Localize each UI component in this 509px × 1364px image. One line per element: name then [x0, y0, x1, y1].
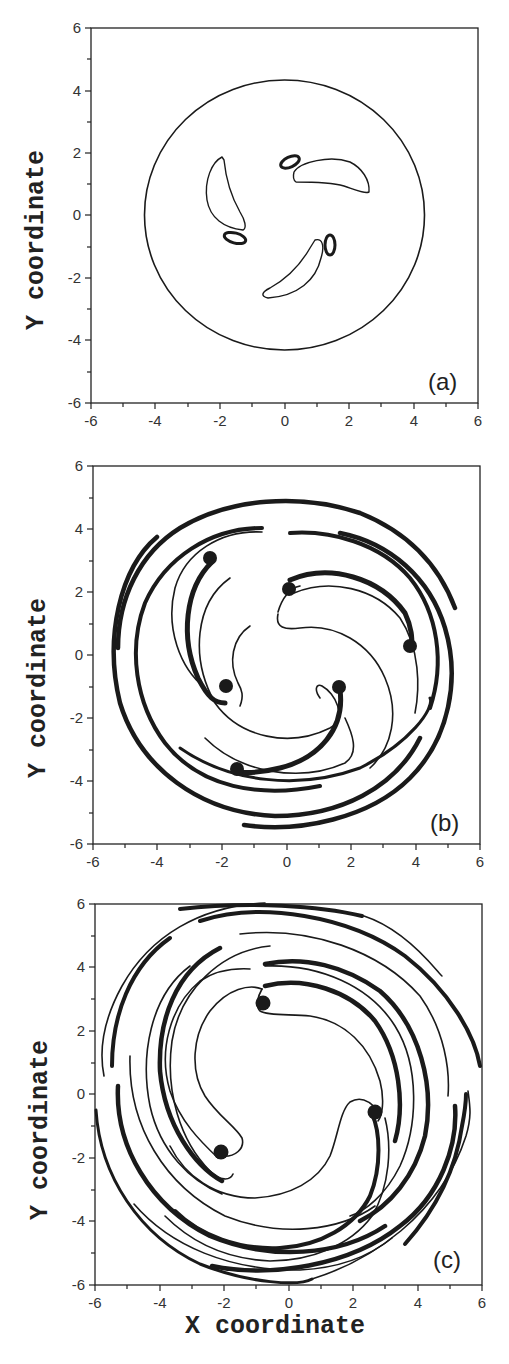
y-tick: 6: [73, 19, 81, 36]
panel-a: -6 -4 -2 0 2 4 6 6 4 2 0 -2 -4 -6: [0, 0, 509, 430]
x-tick: -4: [150, 853, 163, 870]
spiral-arm-thin: [233, 626, 250, 706]
y-axis-label: Y coordinate: [26, 1040, 55, 1220]
x-tick: 2: [349, 1294, 357, 1311]
spiral-arm-thick: [136, 528, 320, 791]
x-tick: -6: [86, 853, 99, 870]
x-tick-labels: -6 -4 -2 0 2 4 6: [86, 853, 484, 870]
marker-dot: [403, 639, 417, 653]
marker-dot: [203, 551, 217, 565]
panel-label-c: (c): [433, 1246, 461, 1273]
y-tick: -6: [72, 1276, 85, 1293]
y-axis-label: Y coordinate: [24, 598, 53, 778]
x-tick: -2: [213, 412, 226, 429]
small-ellipse: [223, 230, 247, 245]
marker-dot: [368, 1105, 383, 1120]
panel-c-plot: -6 -4 -2 0 2 4 6 6 4 2 0 -2 -4 -6: [0, 876, 509, 1364]
y-tick: 2: [77, 1022, 85, 1039]
x-tick: 4: [412, 853, 420, 870]
panel-label-b: (b): [430, 809, 459, 836]
x-tick: 2: [345, 412, 353, 429]
x-tick: 0: [281, 412, 289, 429]
spiral-arm-thin: [364, 916, 442, 976]
y-tick: 0: [73, 206, 81, 223]
plot-frame: [91, 28, 478, 403]
marker-dot: [332, 680, 346, 694]
marker-dot: [282, 582, 296, 596]
y-tick: -4: [72, 1212, 85, 1229]
spiral-arm-thin: [195, 987, 262, 1156]
x-tick: 2: [347, 853, 355, 870]
panel-a-plot: -6 -4 -2 0 2 4 6 6 4 2 0 -2 -4 -6: [0, 0, 509, 430]
spiral-contours-b: [114, 501, 455, 827]
x-tick: 0: [283, 853, 291, 870]
y-tick-labels: 6 4 2 0 -2 -4 -6: [72, 895, 85, 1293]
x-tick: 6: [474, 412, 482, 429]
y-tick: 2: [75, 583, 83, 600]
y-tick: -2: [68, 269, 81, 286]
dot-markers-c: [214, 996, 383, 1160]
x-tick: -2: [217, 1294, 230, 1311]
spiral-arm-thick: [290, 533, 438, 708]
marker-dot: [214, 1145, 229, 1160]
y-tick-labels: 6 4 2 0 -2 -4 -6: [70, 457, 83, 852]
x-tick: 6: [476, 853, 484, 870]
plot-frame: [93, 466, 480, 844]
x-tick: -6: [84, 412, 97, 429]
y-axis-label: Y coordinate: [22, 150, 51, 330]
y-tick: -6: [70, 835, 83, 852]
spiral-arm-thin: [146, 966, 222, 1194]
x-tick: -4: [148, 412, 161, 429]
spiral-arm-thin: [199, 578, 338, 738]
x-tick: -2: [215, 853, 228, 870]
panel-b-plot: -6 -4 -2 0 2 4 6 6 4 2 0 -2 -4 -6: [0, 438, 509, 878]
crescent-contour: [263, 240, 323, 298]
y-tick: -4: [68, 331, 81, 348]
crescent-contour: [206, 157, 245, 230]
y-tick: 4: [75, 520, 83, 537]
y-tick: 4: [73, 82, 81, 99]
y-tick-labels: 6 4 2 0 -2 -4 -6: [68, 19, 81, 411]
x-tick-labels: -6 -4 -2 0 2 4 6: [84, 412, 482, 429]
boundary-circle: [145, 80, 425, 350]
y-tick: -2: [72, 1149, 85, 1166]
panel-label-a: (a): [428, 368, 457, 395]
x-tick: 6: [478, 1294, 486, 1311]
marker-dot: [256, 996, 271, 1011]
x-tick-labels: -6 -4 -2 0 2 4 6: [88, 1294, 486, 1311]
spiral-arm-thick: [96, 1110, 312, 1283]
panel-c: -6 -4 -2 0 2 4 6 6 4 2 0 -2 -4 -6: [0, 876, 509, 1364]
spiral-arm-thin: [205, 718, 354, 773]
marker-dot: [219, 679, 233, 693]
spiral-arm-thick: [265, 961, 428, 1221]
x-tick: -6: [88, 1294, 101, 1311]
marker-dot: [230, 762, 244, 776]
x-tick: 0: [285, 1294, 293, 1311]
x-tick: 4: [410, 412, 418, 429]
y-tick: 6: [75, 457, 83, 474]
y-tick: -2: [70, 709, 83, 726]
x-tick: 4: [414, 1294, 422, 1311]
contours-a: [145, 80, 425, 350]
y-tick: 0: [75, 646, 83, 663]
y-tick: -4: [70, 772, 83, 789]
panel-b: -6 -4 -2 0 2 4 6 6 4 2 0 -2 -4 -6: [0, 438, 509, 878]
x-tick: -4: [153, 1294, 166, 1311]
y-tick: -6: [68, 394, 81, 411]
y-tick: 0: [77, 1085, 85, 1102]
y-tick: 4: [77, 958, 85, 975]
small-ellipse: [325, 235, 335, 255]
x-axis-label: X coordinate: [185, 1312, 365, 1341]
y-tick: 6: [77, 895, 85, 912]
dot-markers-b: [203, 551, 417, 776]
spiral-contours-c: [96, 903, 480, 1283]
y-tick: 2: [73, 144, 81, 161]
crescent-contour: [293, 159, 369, 192]
